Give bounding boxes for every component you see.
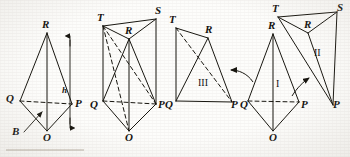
label-vertex-q-panel3: Q	[165, 99, 173, 110]
edge-r-q	[248, 34, 273, 101]
edge-t-p	[278, 17, 333, 105]
label-vertex-p-panel4: P	[301, 99, 308, 110]
label-vertex-o-panel2: O	[125, 132, 133, 143]
edge-q-p	[176, 101, 232, 102]
move-arrow-left	[231, 70, 253, 82]
label-piece-three: III	[198, 78, 208, 88]
label-vertex-t-panel5: T	[272, 3, 279, 14]
geometry-figure-page: R Q P O h B T S R Q P O T R Q P III R Q …	[0, 0, 350, 157]
label-height-h: h	[62, 86, 67, 95]
label-vertex-r-panel2: R	[125, 25, 132, 36]
edge-r-q	[20, 33, 47, 101]
edge-r-p	[47, 33, 72, 104]
edge-r-p	[129, 39, 156, 104]
label-vertex-s-panel5: S	[337, 2, 343, 13]
edge-r-q	[176, 38, 208, 101]
label-vertex-p-panel1: P	[75, 98, 82, 109]
panel-piece-one	[248, 34, 299, 131]
edge-t-s	[278, 12, 337, 17]
edge-s-p	[333, 12, 337, 105]
label-vertex-p-panel3: P	[231, 99, 238, 110]
label-apex-r-panel1: R	[42, 19, 49, 30]
edge-qp-hidden	[20, 101, 72, 104]
label-piece-two: II	[314, 48, 321, 58]
label-base-b: B	[12, 126, 19, 137]
label-vertex-q-panel2: Q	[90, 99, 98, 110]
label-vertex-o-panel1: O	[43, 132, 51, 143]
label-vertex-t-panel2: T	[97, 12, 104, 23]
label-vertex-q-panel4: Q	[240, 99, 248, 110]
label-vertex-o-panel4: O	[269, 132, 277, 143]
label-vertex-p-panel2: P	[158, 99, 165, 110]
panel-pyramid-h-b	[20, 33, 72, 132]
label-vertex-r-panel3: R	[205, 24, 212, 35]
edge-r-p	[308, 33, 333, 105]
label-piece-one: I	[276, 79, 279, 89]
edge-q-o-p	[20, 101, 72, 131]
label-vertex-t-panel3: T	[169, 14, 176, 25]
label-vertex-q-panel1: Q	[6, 93, 14, 104]
panel-piece-three	[176, 28, 232, 102]
edge-t-r	[176, 28, 208, 38]
edge-t-p-hidden	[176, 28, 232, 102]
edge-s-r	[308, 12, 337, 33]
label-vertex-r-panel5: R	[304, 19, 311, 30]
move-arrow-right	[292, 78, 309, 96]
edge-r-q	[103, 39, 129, 101]
label-vertex-p-panel5: P	[333, 99, 340, 110]
label-apex-r-panel4: R	[268, 20, 275, 31]
label-vertex-s-panel2: S	[155, 5, 161, 16]
edge-r-p	[208, 38, 232, 102]
